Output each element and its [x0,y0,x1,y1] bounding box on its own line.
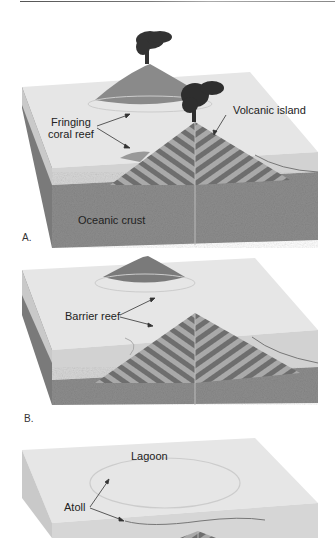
label-barrier-reef: Barrier reef [65,310,120,322]
panel-letter-b: B. [24,413,33,424]
label-fringing-reef: Fringing coral reef [48,116,94,140]
smoke-plume-back [136,31,172,64]
panel-c-diagram [0,428,335,538]
panel-b-diagram [0,255,335,415]
label-lagoon: Lagoon [131,450,168,462]
panel-letter-a: A. [22,232,31,243]
label-oceanic-crust: Oceanic crust [78,214,145,226]
label-volcanic-island: Volcanic island [233,104,306,116]
label-atoll: Atoll [64,501,85,513]
